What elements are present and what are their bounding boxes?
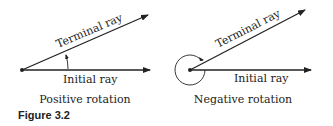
rotation-arrow-icon: [66, 55, 68, 69]
terminal-ray: [22, 15, 148, 70]
figure-caption: Figure 3.2: [18, 109, 70, 121]
terminal-ray-label: Terminal ray: [213, 7, 283, 51]
terminal-ray: [190, 10, 305, 70]
panel-title: Positive rotation: [39, 93, 130, 106]
rotation-circle-arrowhead-icon: [199, 57, 204, 61]
rotation-diagram: Terminal ray Initial ray Positive rotati…: [0, 0, 333, 126]
positive-rotation-panel: Terminal ray Initial ray Positive rotati…: [20, 11, 150, 106]
terminal-ray-label: Terminal ray: [54, 11, 125, 51]
initial-ray-label: Initial ray: [63, 73, 118, 86]
origin-point: [20, 68, 24, 72]
panel-title: Negative rotation: [194, 93, 292, 106]
negative-rotation-panel: Terminal ray Initial ray Negative rotati…: [175, 7, 311, 106]
initial-ray-label: Initial ray: [234, 72, 289, 85]
origin-point: [188, 68, 192, 72]
